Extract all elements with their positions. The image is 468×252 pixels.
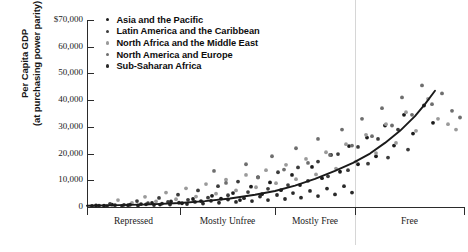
data-point bbox=[234, 200, 238, 204]
data-point bbox=[246, 190, 250, 194]
data-point bbox=[234, 189, 238, 193]
data-point bbox=[283, 197, 287, 201]
data-point bbox=[386, 156, 390, 160]
data-point bbox=[431, 121, 435, 125]
data-point bbox=[370, 134, 374, 138]
data-point bbox=[308, 189, 312, 193]
data-point bbox=[430, 102, 434, 106]
data-point bbox=[174, 197, 178, 201]
data-point bbox=[384, 122, 388, 126]
data-point bbox=[333, 193, 337, 197]
data-point bbox=[264, 168, 268, 172]
data-point bbox=[350, 191, 354, 195]
data-point bbox=[304, 157, 308, 161]
data-point bbox=[206, 196, 210, 200]
data-point bbox=[250, 199, 254, 203]
data-point bbox=[236, 180, 240, 184]
data-point bbox=[212, 169, 216, 173]
data-point bbox=[454, 128, 458, 132]
data-point bbox=[294, 146, 298, 150]
data-point bbox=[458, 116, 462, 120]
data-point bbox=[244, 173, 248, 177]
data-point bbox=[299, 196, 303, 200]
data-point bbox=[404, 110, 408, 114]
data-point bbox=[270, 154, 274, 158]
data-point bbox=[184, 186, 188, 190]
data-point bbox=[324, 150, 328, 154]
data-point bbox=[338, 170, 342, 174]
data-point bbox=[186, 198, 190, 202]
data-point bbox=[325, 187, 329, 191]
data-point bbox=[291, 191, 295, 195]
data-point bbox=[450, 109, 454, 113]
data-point bbox=[226, 193, 230, 197]
data-point bbox=[284, 163, 288, 167]
data-point bbox=[390, 124, 394, 128]
chart-container: Per Capita GDP (at purchasing power pari… bbox=[0, 0, 468, 252]
data-point bbox=[440, 92, 444, 96]
series-asia-and-the-pacific bbox=[94, 104, 435, 208]
data-point bbox=[154, 199, 158, 203]
data-point bbox=[135, 199, 139, 203]
data-point bbox=[364, 133, 368, 137]
data-point bbox=[254, 185, 258, 189]
data-point bbox=[340, 128, 344, 132]
data-point bbox=[342, 184, 346, 188]
data-point bbox=[360, 117, 364, 121]
data-point bbox=[217, 201, 221, 205]
data-point bbox=[296, 166, 300, 170]
data-point bbox=[238, 198, 242, 202]
data-point bbox=[420, 84, 424, 88]
data-point bbox=[256, 176, 260, 180]
data-point bbox=[316, 194, 320, 198]
data-point bbox=[410, 113, 414, 117]
data-point bbox=[306, 161, 310, 165]
data-point bbox=[380, 106, 384, 110]
data-point bbox=[356, 145, 360, 149]
data-point bbox=[394, 141, 398, 145]
data-point bbox=[290, 173, 294, 177]
data-point bbox=[244, 162, 248, 166]
data-point bbox=[210, 194, 214, 198]
data-point bbox=[414, 129, 418, 133]
data-point bbox=[316, 137, 320, 141]
data-point bbox=[436, 117, 440, 121]
data-point bbox=[268, 181, 272, 185]
data-point bbox=[282, 168, 286, 172]
data-point bbox=[275, 193, 279, 197]
data-point bbox=[249, 185, 253, 189]
data-point bbox=[196, 189, 200, 193]
data-point bbox=[224, 181, 228, 185]
data-point bbox=[316, 160, 320, 164]
data-point bbox=[266, 187, 270, 191]
data-point bbox=[336, 152, 340, 156]
data-point bbox=[314, 173, 318, 177]
data-point bbox=[406, 148, 410, 152]
data-point bbox=[294, 177, 298, 181]
data-point bbox=[143, 195, 147, 199]
data-point bbox=[366, 162, 370, 166]
data-point bbox=[231, 191, 235, 195]
data-point bbox=[214, 192, 218, 196]
data-point bbox=[157, 196, 161, 200]
data-point bbox=[374, 151, 378, 155]
data-point bbox=[400, 96, 404, 100]
data-point bbox=[216, 184, 220, 188]
data-point bbox=[164, 191, 168, 195]
data-point bbox=[258, 195, 262, 199]
data-point bbox=[266, 198, 270, 202]
data-point bbox=[274, 181, 278, 185]
data-point bbox=[176, 193, 180, 197]
data-point bbox=[204, 182, 208, 186]
data-point bbox=[116, 198, 120, 202]
data-point bbox=[328, 153, 332, 157]
data-point bbox=[310, 165, 314, 169]
data-point bbox=[446, 122, 450, 126]
data-point bbox=[411, 132, 415, 136]
data-point bbox=[376, 137, 380, 141]
data-point bbox=[194, 195, 198, 199]
data-point bbox=[350, 144, 354, 148]
data-point bbox=[344, 142, 348, 146]
data-point bbox=[346, 168, 350, 172]
plot-area bbox=[0, 0, 468, 252]
